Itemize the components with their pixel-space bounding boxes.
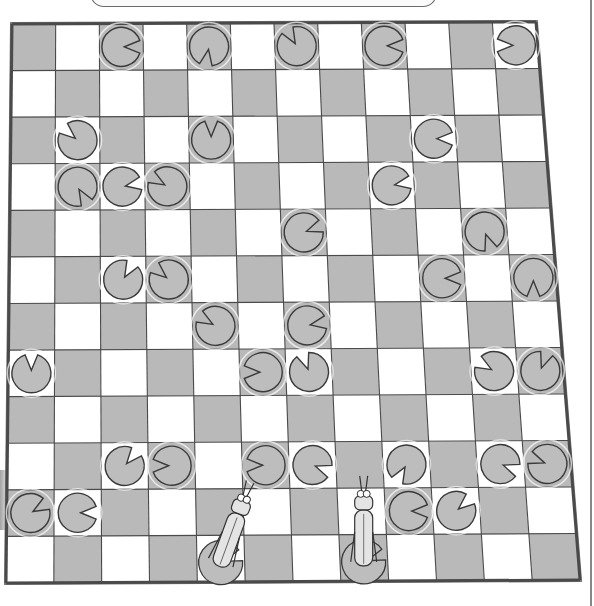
lily-pad[interactable] xyxy=(382,441,430,489)
board-square[interactable] xyxy=(55,303,101,350)
board-square[interactable] xyxy=(55,210,100,257)
board-square[interactable] xyxy=(496,69,544,116)
board-square[interactable] xyxy=(290,488,339,535)
lily-pad[interactable] xyxy=(54,163,102,211)
lily-pad[interactable] xyxy=(191,302,239,350)
board-square[interactable] xyxy=(423,348,472,395)
lily-pad[interactable] xyxy=(285,348,333,396)
board-square[interactable] xyxy=(335,441,384,488)
lily-pad[interactable] xyxy=(516,347,564,395)
board-square[interactable] xyxy=(12,24,56,71)
board-square[interactable] xyxy=(472,394,522,441)
lily-pad[interactable] xyxy=(280,208,328,256)
board-square[interactable] xyxy=(464,255,513,302)
board-square[interactable] xyxy=(426,394,475,441)
board-square[interactable] xyxy=(327,255,375,302)
board-square[interactable] xyxy=(325,209,372,256)
lily-pad[interactable] xyxy=(273,22,321,70)
board-square[interactable] xyxy=(101,349,148,396)
board-square[interactable] xyxy=(230,23,275,70)
board-square[interactable] xyxy=(54,396,101,443)
board-square[interactable] xyxy=(416,208,464,255)
board-square[interactable] xyxy=(11,117,56,164)
lily-pad[interactable] xyxy=(461,208,509,256)
board-square[interactable] xyxy=(279,162,326,209)
board-square[interactable] xyxy=(54,350,100,397)
board-square[interactable] xyxy=(238,302,285,349)
board-square[interactable] xyxy=(10,164,55,211)
board-square[interactable] xyxy=(188,70,233,117)
board-square[interactable] xyxy=(8,396,55,443)
board-square[interactable] xyxy=(193,349,240,396)
board-square[interactable] xyxy=(421,301,470,348)
board-square[interactable] xyxy=(364,69,411,116)
board-square[interactable] xyxy=(429,441,479,488)
board-square[interactable] xyxy=(455,115,503,162)
board-square[interactable] xyxy=(101,536,149,583)
board-square[interactable] xyxy=(54,536,102,583)
board-square[interactable] xyxy=(147,396,194,443)
board-square[interactable] xyxy=(101,303,147,350)
lily-pad[interactable] xyxy=(523,440,571,488)
board-square[interactable] xyxy=(370,209,418,256)
board-square[interactable] xyxy=(318,23,364,70)
board-square[interactable] xyxy=(55,257,101,304)
board-square[interactable] xyxy=(323,162,370,209)
board-square[interactable] xyxy=(6,536,54,583)
board-square[interactable] xyxy=(322,116,369,163)
board-square[interactable] xyxy=(277,116,323,163)
board-square[interactable] xyxy=(243,488,292,535)
board-square[interactable] xyxy=(502,162,550,209)
board-square[interactable] xyxy=(244,535,293,582)
lily-pad[interactable] xyxy=(101,442,149,490)
board-square[interactable] xyxy=(333,395,382,442)
board-square[interactable] xyxy=(375,302,423,349)
board-square[interactable] xyxy=(526,487,577,534)
board-square[interactable] xyxy=(276,69,322,116)
board-square[interactable] xyxy=(287,395,335,442)
board-square[interactable] xyxy=(54,443,101,490)
board-square[interactable] xyxy=(55,70,99,117)
board-square[interactable] xyxy=(9,303,55,350)
board-square[interactable] xyxy=(100,210,146,257)
board-square[interactable] xyxy=(499,115,547,162)
lily-pad[interactable] xyxy=(145,255,193,303)
board-square[interactable] xyxy=(143,23,188,70)
board-square[interactable] xyxy=(11,70,56,117)
board-square[interactable] xyxy=(189,163,235,210)
board-square[interactable] xyxy=(148,489,196,536)
board-square[interactable] xyxy=(147,349,194,396)
board-square[interactable] xyxy=(101,396,148,443)
board-square[interactable] xyxy=(10,210,56,257)
board-square[interactable] xyxy=(449,22,496,69)
board-square[interactable] xyxy=(100,70,145,117)
board-square[interactable] xyxy=(380,395,429,442)
board-square[interactable] xyxy=(145,210,191,257)
board-square[interactable] xyxy=(195,442,243,489)
board-square[interactable] xyxy=(100,117,145,164)
board-square[interactable] xyxy=(413,162,461,209)
board-square[interactable] xyxy=(56,24,100,71)
lily-pad[interactable] xyxy=(54,116,102,164)
board-square[interactable] xyxy=(331,348,379,395)
board-square[interactable] xyxy=(458,162,506,209)
board-square[interactable] xyxy=(190,209,236,256)
board-square[interactable] xyxy=(519,394,569,441)
board-square[interactable] xyxy=(240,395,288,442)
board-square[interactable] xyxy=(233,116,279,163)
board-square[interactable] xyxy=(405,22,452,69)
board-square[interactable] xyxy=(9,257,55,304)
board-square[interactable] xyxy=(234,163,280,210)
board-square[interactable] xyxy=(386,534,436,581)
board-square[interactable] xyxy=(512,301,561,348)
board-square[interactable] xyxy=(235,209,282,256)
lily-pad[interactable] xyxy=(476,440,524,488)
board-square[interactable] xyxy=(291,535,340,582)
board-square[interactable] xyxy=(320,69,366,116)
board-square[interactable] xyxy=(478,487,528,534)
lily-pad[interactable] xyxy=(470,347,518,395)
board-square[interactable] xyxy=(434,534,484,581)
board-square[interactable] xyxy=(232,70,278,117)
board-square[interactable] xyxy=(373,255,421,302)
board-square[interactable] xyxy=(408,69,455,116)
